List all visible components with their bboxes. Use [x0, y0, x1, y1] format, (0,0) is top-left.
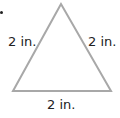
- right-side-label: 2 in.: [88, 35, 116, 48]
- left-side-label: 2 in.: [8, 35, 36, 48]
- bottom-side-label: 2 in.: [47, 98, 75, 111]
